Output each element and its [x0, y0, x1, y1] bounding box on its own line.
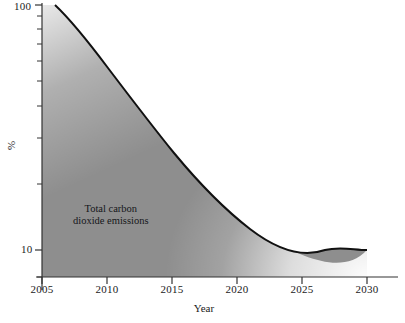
x-axis-title: Year: [194, 303, 214, 314]
x-tick-label-2025: 2025: [291, 284, 314, 295]
x-tick-label-2005: 2005: [31, 284, 54, 295]
y-axis-minor-ticks: [37, 16, 42, 277]
x-axis-ticks: [42, 277, 367, 284]
x-tick-label-2010: 2010: [96, 284, 119, 295]
y-axis-major-ticks: [35, 5, 42, 250]
y-tick-label-10: 10: [21, 244, 32, 255]
series-annotation-label: Total carbon dioxide emissions: [73, 203, 149, 227]
x-tick-label-2020: 2020: [226, 284, 249, 295]
y-axis-title: %: [6, 131, 17, 161]
x-tick-label-2015: 2015: [161, 284, 184, 295]
x-tick-label-2030: 2030: [356, 284, 379, 295]
chart-figure: 100 10 2005 2010 2015 2020 2025 2030 Yea…: [0, 0, 405, 323]
y-tick-label-100: 100: [14, 1, 31, 12]
chart-plot-area: [0, 0, 405, 323]
